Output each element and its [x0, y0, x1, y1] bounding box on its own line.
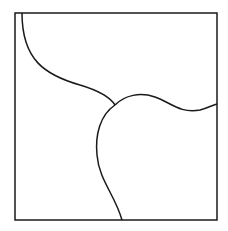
right-curve — [115, 95, 217, 111]
top-left-curve — [22, 13, 115, 105]
bottom-curve — [97, 105, 122, 220]
region-division-diagram — [0, 0, 228, 231]
diagram-canvas — [0, 0, 228, 231]
square-frame — [15, 13, 217, 220]
